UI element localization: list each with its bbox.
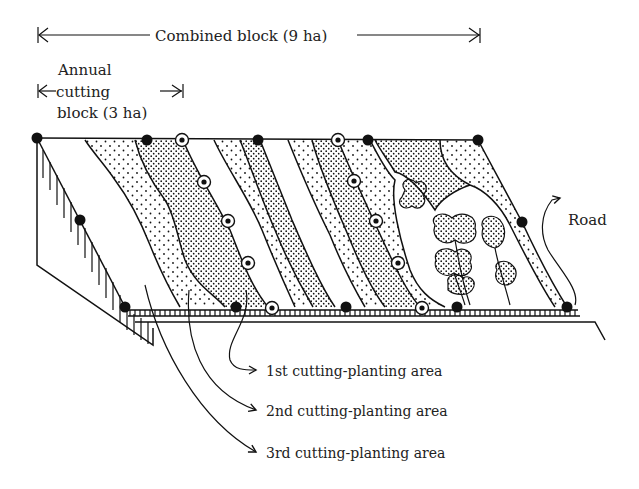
annual-label-line2: cutting [56, 83, 111, 101]
annual-label-line1: Annual [57, 61, 112, 79]
annual-cutting-block-dimension: Annual cutting block (3 ha) [38, 61, 183, 122]
road [125, 310, 605, 340]
area-3-label: 3rd cutting-planting area [266, 445, 445, 461]
solid-marker-icon [517, 217, 528, 228]
solid-marker-icon [75, 215, 86, 226]
solid-marker-icon [32, 133, 43, 144]
road-label: Road [568, 211, 607, 229]
annual-label-line3: block (3 ha) [57, 104, 147, 122]
solid-marker-icon [452, 302, 463, 313]
solid-marker-icon [253, 135, 264, 146]
solid-marker-icon [120, 302, 131, 313]
hillside-slope [32, 133, 606, 346]
solid-marker-icon [142, 135, 153, 146]
solid-marker-icon [473, 135, 484, 146]
area-1-label: 1st cutting-planting area [266, 363, 442, 379]
combined-block-dimension: Combined block (9 ha) [38, 27, 480, 45]
road-ticks [130, 310, 575, 316]
solid-marker-icon [231, 302, 242, 313]
solid-marker-icon [562, 302, 573, 313]
forest-cutting-block-diagram: Combined block (9 ha) Annual cutting blo… [0, 0, 639, 489]
solid-marker-icon [363, 135, 374, 146]
combined-block-label: Combined block (9 ha) [155, 27, 327, 45]
area-2-label: 2nd cutting-planting area [266, 403, 448, 419]
solid-marker-icon [341, 302, 352, 313]
